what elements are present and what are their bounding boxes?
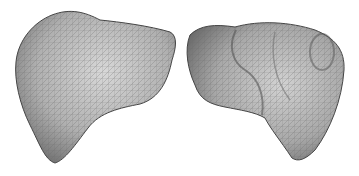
liver-mesh-anterior-view <box>16 11 176 163</box>
liver-mesh-posterior-view <box>187 23 344 160</box>
mesh-renderings <box>0 0 359 176</box>
figure-canvas <box>0 0 359 176</box>
